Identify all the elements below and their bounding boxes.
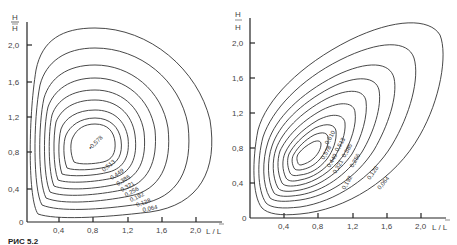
left-x-ticks: 0,4 0,8 1,2 1,6 2,0 L / L bbox=[53, 217, 224, 236]
svg-text:1,2: 1,2 bbox=[232, 109, 244, 118]
svg-text:1,2: 1,2 bbox=[347, 222, 359, 231]
svg-text:0,256: 0,256 bbox=[349, 152, 362, 169]
left-x-label: L / L bbox=[206, 227, 222, 236]
svg-text:2,0: 2,0 bbox=[8, 41, 20, 50]
svg-text:0,8: 0,8 bbox=[8, 148, 20, 157]
svg-text:0,4: 0,4 bbox=[232, 179, 244, 188]
svg-text:1,6: 1,6 bbox=[8, 78, 20, 87]
svg-text:0,4: 0,4 bbox=[278, 222, 290, 231]
right-y-label-bottom: H bbox=[235, 23, 241, 32]
right-chart: H H 2,0 1,6 1,2 0,8 0,4 0 0,4 0,8 1,2 1,… bbox=[232, 10, 450, 232]
figure-caption: РИС 5.2 bbox=[8, 237, 39, 245]
right-x-ticks: 0,4 0,8 1,2 1,6 2,0 L / L bbox=[278, 213, 450, 232]
figure: H H 2,0 1,6 1,2 0,8 0,4 0 0,4 0,8 1,2 1,… bbox=[0, 0, 457, 245]
svg-text:0,064: 0,064 bbox=[376, 175, 391, 191]
svg-text:0: 0 bbox=[242, 214, 247, 223]
svg-text:0,4: 0,4 bbox=[53, 226, 65, 235]
right-x-label: L / L bbox=[432, 223, 448, 232]
svg-text:0,4: 0,4 bbox=[8, 185, 20, 194]
svg-text:0: 0 bbox=[19, 218, 24, 227]
right-y-label-top: H bbox=[235, 10, 241, 19]
left-y-label-bottom: H bbox=[12, 24, 18, 33]
left-peak-label: •0,578 bbox=[87, 134, 104, 151]
svg-text:2,0: 2,0 bbox=[232, 39, 244, 48]
left-y-ticks: 2,0 1,6 1,2 0,8 0,4 0 bbox=[8, 41, 32, 227]
svg-text:0,192: 0,192 bbox=[341, 174, 354, 191]
svg-text:2,0: 2,0 bbox=[190, 226, 202, 235]
left-y-label-top: H bbox=[12, 13, 18, 22]
svg-text:0,8: 0,8 bbox=[312, 222, 324, 231]
svg-text:1,2: 1,2 bbox=[122, 226, 134, 235]
svg-text:1,6: 1,6 bbox=[381, 222, 393, 231]
svg-text:0,128: 0,128 bbox=[366, 164, 380, 180]
svg-text:2,0: 2,0 bbox=[415, 222, 427, 231]
svg-text:0,8: 0,8 bbox=[232, 144, 244, 153]
svg-text:1,6: 1,6 bbox=[232, 74, 244, 83]
right-y-ticks: 2,0 1,6 1,2 0,8 0,4 0 bbox=[232, 39, 255, 223]
left-chart: H H 2,0 1,6 1,2 0,8 0,4 0 0,4 0,8 1,2 1,… bbox=[8, 13, 224, 236]
svg-text:1,6: 1,6 bbox=[156, 226, 168, 235]
svg-text:1,2: 1,2 bbox=[8, 113, 20, 122]
svg-text:0,8: 0,8 bbox=[87, 226, 99, 235]
